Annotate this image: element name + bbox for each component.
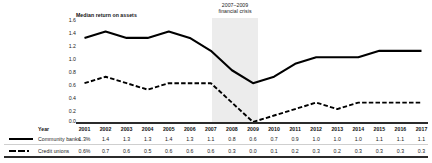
table-row-community-banks: Community banks 1.3%1.41.31.31.41.31.10.… <box>0 133 432 145</box>
cell-community-banks-2011: 0.9 <box>284 133 306 145</box>
cell-community-banks-2009: 0.6 <box>242 133 264 145</box>
year-label-2002: 2002 <box>95 126 117 132</box>
cell-credit-unions-2010: 0.1 <box>263 145 285 157</box>
cell-credit-unions-2014: 0.3 <box>347 145 369 157</box>
year-label-2007: 2007 <box>200 126 222 132</box>
cell-community-banks-2016: 1.1 <box>389 133 411 145</box>
cell-community-banks-2004: 1.3 <box>137 133 159 145</box>
solid-line-swatch <box>9 138 33 141</box>
legend-label-credit-unions: Credit unions <box>38 145 69 157</box>
cell-credit-unions-2007: 0.6 <box>200 145 222 157</box>
cell-community-banks-2002: 1.4 <box>95 133 117 145</box>
year-label-2008: 2008 <box>221 126 243 132</box>
legend-swatch-credit-unions <box>9 145 33 156</box>
year-axis-label: Year <box>38 126 49 132</box>
year-label-2010: 2010 <box>263 126 285 132</box>
table-bottom-rule <box>4 156 428 158</box>
cell-credit-unions-2017: 0.3 <box>411 145 432 157</box>
cell-credit-unions-2003: 0.6 <box>116 145 138 157</box>
cell-credit-unions-2012: 0.3 <box>305 145 327 157</box>
cell-credit-unions-2011: 0.2 <box>284 145 306 157</box>
year-label-2011: 2011 <box>284 126 306 132</box>
cell-credit-unions-2006: 0.6 <box>179 145 201 157</box>
year-label-2015: 2015 <box>368 126 390 132</box>
year-label-2006: 2006 <box>179 126 201 132</box>
year-label-2005: 2005 <box>158 126 180 132</box>
cell-credit-unions-2001: 0.6% <box>74 145 96 157</box>
cell-credit-unions-2002: 0.7 <box>95 145 117 157</box>
plot-area: Median return on assets 2007–2009 financ… <box>0 0 432 124</box>
cell-community-banks-2012: 1.0 <box>305 133 327 145</box>
cell-community-banks-2001: 1.3% <box>74 133 96 145</box>
cell-community-banks-2005: 1.4 <box>158 133 180 145</box>
line-community-banks <box>85 31 422 83</box>
year-label-2013: 2013 <box>326 126 348 132</box>
year-label-2001: 2001 <box>74 126 96 132</box>
cell-community-banks-2014: 1.0 <box>347 133 369 145</box>
x-axis-rule <box>76 122 428 124</box>
cell-credit-unions-2009: 0.0 <box>242 145 264 157</box>
cell-credit-unions-2005: 0.6 <box>158 145 180 157</box>
cell-community-banks-2015: 1.1 <box>368 133 390 145</box>
chart-figure: Median return on assets 2007–2009 financ… <box>0 0 432 163</box>
year-label-2014: 2014 <box>347 126 369 132</box>
series-lines <box>0 0 432 124</box>
dashdot-line-swatch <box>9 150 33 152</box>
cell-community-banks-2008: 0.8 <box>221 133 243 145</box>
legend-swatch-community-banks <box>9 133 33 144</box>
year-label-2017: 2017 <box>411 126 432 132</box>
cell-community-banks-2017: 1.1 <box>411 133 432 145</box>
year-label-2016: 2016 <box>389 126 411 132</box>
cell-community-banks-2006: 1.3 <box>179 133 201 145</box>
table-row-credit-unions: Credit unions 0.6%0.70.60.50.60.60.60.30… <box>0 145 432 157</box>
year-label-2003: 2003 <box>116 126 138 132</box>
cell-credit-unions-2008: 0.3 <box>221 145 243 157</box>
year-label-2009: 2009 <box>242 126 264 132</box>
cell-credit-unions-2004: 0.5 <box>137 145 159 157</box>
data-table: Community banks 1.3%1.41.31.31.41.31.10.… <box>0 133 432 157</box>
cell-credit-unions-2015: 0.3 <box>368 145 390 157</box>
cell-community-banks-2010: 0.7 <box>263 133 285 145</box>
cell-community-banks-2013: 1.0 <box>326 133 348 145</box>
cell-community-banks-2003: 1.3 <box>116 133 138 145</box>
cell-community-banks-2007: 1.1 <box>200 133 222 145</box>
year-label-2012: 2012 <box>305 126 327 132</box>
year-label-2004: 2004 <box>137 126 159 132</box>
cell-credit-unions-2013: 0.2 <box>326 145 348 157</box>
cell-credit-unions-2016: 0.3 <box>389 145 411 157</box>
